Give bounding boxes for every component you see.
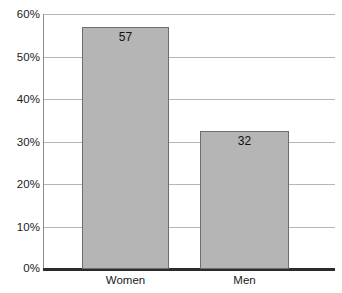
y-tick-label: 60%: [2, 8, 40, 20]
y-axis-line: [43, 14, 44, 270]
y-tick-20: 20%: [0, 178, 40, 190]
bar-men[interactable]: [200, 131, 289, 269]
y-tick-0: 0%: [0, 262, 40, 274]
y-tick-label: 10%: [2, 221, 40, 233]
y-tick-50: 50%: [0, 51, 40, 63]
y-tick-label: 40%: [2, 93, 40, 105]
y-tick-label: 0%: [2, 262, 40, 274]
bar-value-women: 57: [82, 31, 169, 44]
bar-women[interactable]: [82, 27, 169, 269]
y-tick-label: 50%: [2, 51, 40, 63]
bar-chart: 60% 50% 40% 30% 20% 10% 0% 57 32 Women M…: [0, 0, 342, 293]
y-tick-label: 20%: [2, 178, 40, 190]
y-tick-40: 40%: [0, 93, 40, 105]
y-tick-label: 30%: [2, 136, 40, 148]
y-tick-10: 10%: [0, 221, 40, 233]
y-tick-30: 30%: [0, 136, 40, 148]
gridline-60: [43, 14, 335, 15]
bar-value-men: 32: [200, 135, 289, 148]
x-tick-label-men: Men: [200, 273, 289, 287]
y-tick-60: 60%: [0, 8, 40, 20]
x-tick-label-women: Women: [82, 273, 169, 287]
